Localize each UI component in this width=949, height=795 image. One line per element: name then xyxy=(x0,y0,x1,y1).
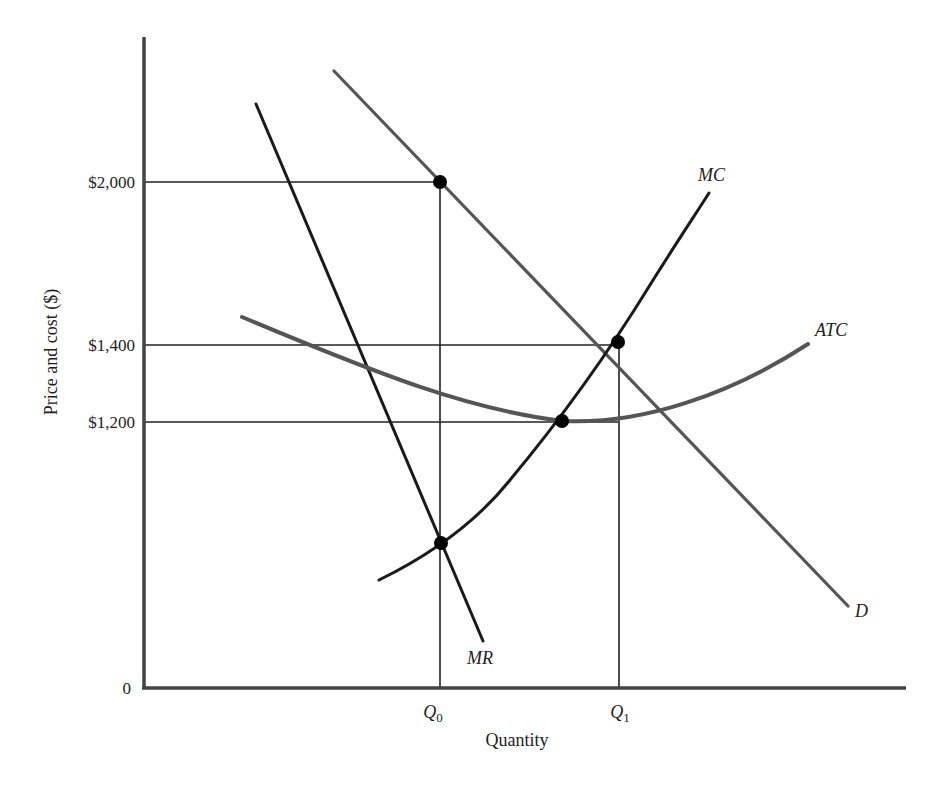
demand-curve xyxy=(334,71,848,606)
y-tick-label-1200: $1,200 xyxy=(88,413,135,432)
chart-canvas: $2,000 $1,400 $1,200 0 Price and cost ($… xyxy=(0,0,949,795)
origin-label: 0 xyxy=(123,679,132,698)
y-tick-label-1400: $1,400 xyxy=(88,336,135,355)
marginal-cost-curve xyxy=(379,193,709,580)
point-mr-equals-mc xyxy=(434,536,448,550)
x-tick-label-q0: Q0 xyxy=(423,702,443,725)
curve-label-mr: MR xyxy=(466,648,493,668)
curve-label-atc: ATC xyxy=(814,320,848,340)
point-demand-at-q0 xyxy=(433,175,447,189)
average-total-cost-curve xyxy=(242,317,808,421)
y-tick-label-2000: $2,000 xyxy=(88,173,135,192)
curve-label-mc: MC xyxy=(697,165,726,185)
point-atc-minimum xyxy=(555,414,569,428)
q1-main: Q xyxy=(610,702,623,722)
q1-subscript: 1 xyxy=(623,710,630,725)
marginal-revenue-curve xyxy=(256,104,483,641)
curve-label-d: D xyxy=(854,601,868,621)
y-axis-title: Price and cost ($) xyxy=(41,289,62,415)
point-mc-at-q1 xyxy=(611,335,625,349)
q0-subscript: 0 xyxy=(436,710,443,725)
q0-main: Q xyxy=(423,702,436,722)
x-tick-label-q1: Q1 xyxy=(610,702,630,725)
x-axis-title: Quantity xyxy=(486,730,549,750)
